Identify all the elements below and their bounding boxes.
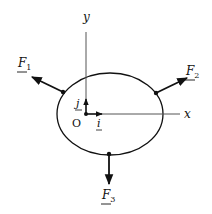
y-axis-label: y bbox=[82, 10, 90, 24]
free-body-diagram: y x O j i F1 F2 F3 bbox=[0, 0, 212, 214]
force-f2-label: F2 bbox=[185, 64, 199, 80]
origin-point bbox=[84, 112, 88, 116]
force-f1-label: F1 bbox=[17, 56, 31, 72]
unit-vector-i-label: i bbox=[97, 117, 101, 130]
origin-label: O bbox=[72, 117, 81, 130]
unit-vector-j-label: j bbox=[73, 97, 80, 110]
x-axis-label: x bbox=[184, 107, 191, 121]
force-f2-arrow bbox=[156, 78, 187, 93]
force-f3-label: F3 bbox=[101, 188, 115, 204]
force-f1-arrow bbox=[32, 77, 63, 92]
